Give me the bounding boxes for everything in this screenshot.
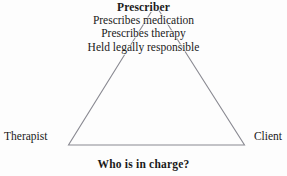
diagram-caption: Who is in charge? — [98, 158, 190, 170]
apex-text-block: Prescriber Prescribes medication Prescri… — [0, 1, 287, 54]
vertex-label-therapist: Therapist — [4, 130, 47, 142]
triangle-diagram: Prescriber Prescribes medication Prescri… — [0, 0, 287, 176]
caption-block: Who is in charge? — [0, 154, 287, 172]
apex-line-3: Held legally responsible — [0, 41, 287, 54]
apex-heading: Prescriber — [0, 1, 287, 14]
apex-line-2: Prescribes therapy — [0, 27, 287, 40]
vertex-label-client: Client — [254, 130, 282, 142]
apex-line-1: Prescribes medication — [0, 14, 287, 27]
